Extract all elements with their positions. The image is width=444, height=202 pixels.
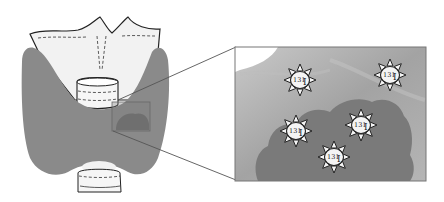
isotope-symbol: I	[299, 128, 303, 138]
iodine-131-sun-icon: 131I	[374, 59, 406, 91]
isotope-symbol: I	[393, 72, 397, 82]
thyroid-diagram: 131I131I131I131I131I	[0, 0, 444, 202]
iodine-131-sun-icon: 131I	[280, 115, 312, 147]
trachea-lower	[78, 161, 121, 192]
iodine-131-sun-icon: 131I	[284, 64, 316, 96]
isotope-symbol: I	[337, 154, 341, 164]
iodine-131-sun-icon: 131I	[318, 141, 350, 173]
iodine-131-sun-icon: 131I	[345, 109, 377, 141]
isotope-symbol: I	[303, 77, 307, 87]
isotope-symbol: I	[364, 122, 368, 132]
magnified-region-marker	[112, 102, 150, 131]
